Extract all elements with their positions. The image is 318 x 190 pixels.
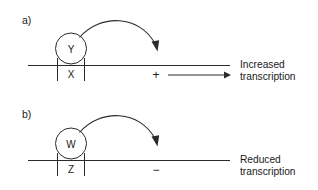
panel-a-regulation-arrowhead — [152, 40, 160, 51]
panel-b-regulation-arrowhead — [152, 135, 160, 146]
panel-a: a) Y X + Increased transcription — [22, 14, 296, 82]
panel-b: b) W Z − Reduced transcription — [22, 108, 296, 177]
panel-a-sign: + — [152, 68, 159, 82]
panel-a-outcome-line2: transcription — [240, 71, 296, 82]
panel-a-regulator-label: Y — [68, 44, 75, 55]
panel-a-output-arrowhead — [224, 72, 231, 79]
panel-b-sign: − — [152, 163, 159, 177]
panel-a-regulation-arrow — [80, 21, 156, 45]
panel-a-outcome-line1: Increased — [240, 59, 285, 70]
gene-regulation-diagram: a) Y X + Increased transcription — [0, 0, 318, 190]
panel-b-regulator-label: W — [66, 139, 76, 150]
panel-b-site-label: Z — [68, 164, 74, 175]
panel-b-outcome-line2: transcription — [240, 166, 296, 177]
panel-b-regulation-arrow — [80, 116, 156, 140]
panel-b-outcome-line1: Reduced — [240, 154, 281, 165]
diagram-canvas: a) Y X + Increased transcription — [0, 0, 318, 190]
panel-b-letter: b) — [22, 108, 31, 120]
panel-a-site-label: X — [68, 69, 75, 80]
panel-a-letter: a) — [22, 14, 31, 26]
